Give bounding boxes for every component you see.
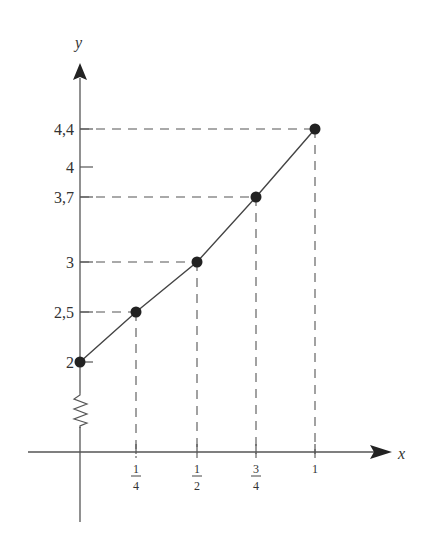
x-tick-numerator: 1: [194, 462, 200, 476]
x-tick-denominator: 2: [194, 479, 200, 493]
x-tick-numerator: 1: [133, 462, 139, 476]
y-tick-label: 3,7: [54, 189, 74, 206]
y-tick-label: 4,4: [54, 121, 74, 138]
x-tick-denominator: 4: [133, 479, 139, 493]
y-tick-label: 3: [66, 254, 74, 271]
line-chart: xy22,533,744,41412341: [0, 0, 421, 556]
data-point: [310, 124, 321, 135]
y-axis-label: y: [73, 34, 83, 52]
chart-container: xy22,533,744,41412341: [0, 0, 421, 556]
data-point: [192, 257, 203, 268]
x-tick-numerator: 1: [312, 462, 318, 476]
y-tick-label: 4: [66, 159, 74, 176]
data-point: [131, 307, 142, 318]
y-tick-label: 2,5: [54, 304, 74, 321]
x-tick-denominator: 4: [253, 479, 259, 493]
x-axis-label: x: [397, 445, 405, 462]
data-point: [251, 192, 262, 203]
data-point: [75, 357, 86, 368]
y-axis-arrow-icon: [73, 63, 87, 80]
x-tick-numerator: 3: [253, 462, 259, 476]
y-tick-label: 2: [66, 354, 74, 371]
